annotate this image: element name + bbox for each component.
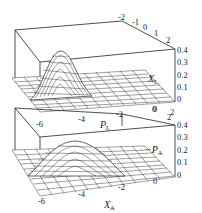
top-x-axis-label: PL xyxy=(99,119,110,131)
svg-text:0: 0 xyxy=(153,176,157,186)
svg-text:-4: -4 xyxy=(78,189,86,199)
svg-text:0.4: 0.4 xyxy=(177,120,188,130)
top-y-axis-label: XL xyxy=(147,73,158,85)
svg-text:2: 2 xyxy=(166,35,170,45)
svg-text:-1: -1 xyxy=(132,17,139,27)
svg-text:0.2: 0.2 xyxy=(177,70,188,80)
svg-text:0.1: 0.1 xyxy=(177,157,188,167)
svg-text:0.1: 0.1 xyxy=(177,82,188,92)
top-z-axis-ticks: 0.4 0.3 0.2 0.1 0 xyxy=(177,45,188,104)
bottom-y-axis-label: −PA xyxy=(145,144,163,156)
svg-text:0: 0 xyxy=(177,170,181,180)
svg-text:0: 0 xyxy=(152,104,156,114)
svg-text:-6: -6 xyxy=(38,196,45,206)
bottom-z-axis-ticks: 0.4 0.3 0.2 0.1 0 xyxy=(177,120,188,180)
top-back-axis-ticks: -2 -1 0 1 2 xyxy=(118,12,170,45)
bottom-back-axis-ticks: 0 2 xyxy=(152,104,171,122)
svg-text:-6: -6 xyxy=(36,119,43,129)
svg-text:0.3: 0.3 xyxy=(177,57,188,67)
figure: -2 -1 0 1 2 0.4 0.3 0.2 0.1 0 XL -6 -4 -… xyxy=(0,0,202,213)
svg-text:-2: -2 xyxy=(118,182,125,192)
svg-text:2: 2 xyxy=(167,112,171,122)
top-box-left-edge xyxy=(15,30,40,62)
svg-text:1: 1 xyxy=(154,28,158,38)
svg-text:0.4: 0.4 xyxy=(177,45,188,55)
svg-text:0: 0 xyxy=(177,94,181,104)
bottom-x-axis-label: XA xyxy=(103,199,115,211)
svg-text:0: 0 xyxy=(143,22,147,32)
svg-text:-4: -4 xyxy=(78,114,86,124)
svg-text:0.2: 0.2 xyxy=(177,145,188,155)
svg-text:-2: -2 xyxy=(118,12,125,22)
svg-text:0.3: 0.3 xyxy=(177,132,188,142)
